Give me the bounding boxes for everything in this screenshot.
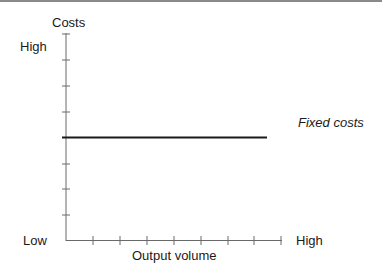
x-axis-high-label: High <box>296 233 323 248</box>
y-axis-high-label: High <box>20 39 47 54</box>
fixed-costs-diagram: Costs High Low High Output volume Fixed … <box>0 0 382 277</box>
chart-canvas <box>0 0 382 277</box>
fixed-costs-label: Fixed costs <box>298 115 364 130</box>
x-axis-label: Output volume <box>132 248 217 263</box>
y-axis-label: Costs <box>52 15 85 30</box>
y-axis-low-label: Low <box>23 233 47 248</box>
